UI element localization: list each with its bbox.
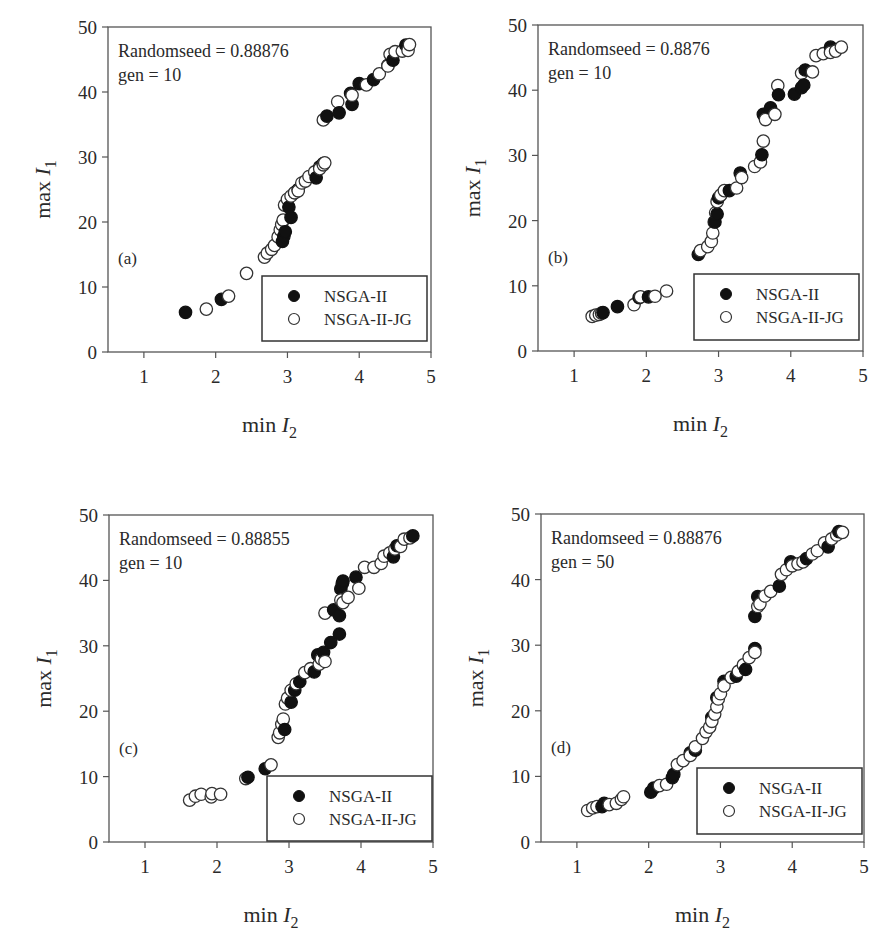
nsga-ii-point — [333, 628, 345, 640]
x-tick-label: 1 — [572, 856, 582, 877]
legend: NSGA-IINSGA-II-JG — [694, 274, 859, 340]
panel-label: (b) — [548, 248, 568, 267]
nsga-ii-point — [333, 107, 345, 119]
y-tick-label: 30 — [508, 145, 527, 166]
nsga-ii-jg-point — [342, 591, 354, 603]
nsga-ii-jg-point — [200, 303, 212, 315]
x-axis-title: min I2 — [242, 412, 297, 441]
nsga-ii-jg-point — [835, 41, 847, 53]
legend-box — [262, 276, 427, 341]
y-axis-title: max I1 — [463, 649, 492, 708]
y-tick-label: 50 — [508, 15, 527, 36]
nsga-ii-jg-point — [617, 791, 629, 803]
nsga-ii-point — [337, 575, 349, 587]
legend-box — [694, 274, 859, 340]
nsga-ii-point — [242, 771, 254, 783]
generation-annotation: gen = 10 — [118, 65, 181, 85]
legend: NSGA-IINSGA-II-JG — [267, 776, 432, 841]
nsga-ii-jg-point — [403, 38, 415, 50]
y-tick-label: 40 — [79, 570, 98, 591]
nsga-ii-jg-point — [769, 108, 781, 120]
x-tick-label: 3 — [716, 856, 726, 877]
y-tick-label: 30 — [511, 635, 530, 656]
nsga-ii-point — [285, 696, 297, 708]
nsga-ii-jg-point — [806, 66, 818, 78]
nsga-ii-jg-point — [660, 285, 672, 297]
panel-label: (c) — [119, 739, 138, 758]
nsga-ii-jg-point — [319, 655, 331, 667]
scatter-panel-b: 0102030405012345max I1min I2Randomseed =… — [460, 15, 868, 440]
y-tick-label: 0 — [89, 832, 99, 853]
x-tick-label: 4 — [356, 856, 366, 877]
y-tick-label: 50 — [79, 505, 98, 526]
y-axis-title: max I1 — [460, 159, 489, 218]
nsga-ii-jg-point — [319, 157, 331, 169]
x-tick-label: 3 — [283, 366, 293, 387]
x-tick-label: 1 — [569, 365, 579, 386]
generation-annotation: gen = 10 — [548, 63, 611, 83]
nsga-ii-point — [407, 530, 419, 542]
nsga-ii-point — [279, 226, 291, 238]
nsga-ii-point — [611, 300, 623, 312]
legend: NSGA-IINSGA-II-JG — [697, 768, 862, 834]
x-tick-label: 1 — [139, 366, 149, 387]
nsga-ii-point — [739, 663, 751, 675]
randomseed-annotation: Randomseed = 0.88855 — [119, 529, 290, 549]
x-axis-title: min I2 — [243, 902, 298, 931]
x-tick-label: 4 — [787, 856, 797, 877]
legend-box — [267, 776, 432, 841]
nsga-ii-point — [278, 723, 290, 735]
legend-box — [697, 768, 862, 834]
nsga-ii-point — [285, 211, 297, 223]
legend-label-nsga-ii: NSGA-II — [756, 285, 820, 304]
nsga-ii-jg-point — [331, 96, 343, 108]
legend: NSGA-IINSGA-II-JG — [262, 276, 427, 341]
nsga-ii-jg-point — [707, 227, 719, 239]
nsga-ii-jg-point — [240, 267, 252, 279]
open-circle-icon — [289, 314, 300, 325]
randomseed-annotation: Randomseed = 0.88876 — [118, 41, 289, 61]
x-axis-title: min I2 — [675, 902, 730, 931]
y-tick-label: 10 — [508, 276, 527, 297]
legend-label-nsga-ii: NSGA-II — [329, 787, 393, 806]
y-tick-label: 20 — [511, 701, 530, 722]
open-circle-icon — [721, 312, 732, 323]
x-tick-label: 2 — [642, 365, 652, 386]
legend-label-nsga-ii-jg: NSGA-II-JG — [324, 310, 412, 329]
scatter-panel-d: 0102030405012345max I1min I2Randomseed =… — [463, 504, 869, 931]
y-tick-label: 30 — [78, 147, 97, 168]
open-circle-icon — [294, 814, 305, 825]
nsga-ii-jg-point — [353, 582, 365, 594]
x-tick-label: 2 — [644, 856, 654, 877]
nsga-ii-jg-point — [346, 89, 358, 101]
panel-label: (a) — [118, 249, 137, 268]
nsga-ii-jg-point — [214, 788, 226, 800]
y-tick-label: 40 — [508, 80, 527, 101]
nsga-ii-jg-point — [222, 290, 234, 302]
figure: 0102030405012345max I1min I2Randomseed =… — [0, 0, 896, 949]
y-tick-label: 40 — [78, 82, 97, 103]
nsga-ii-point — [773, 580, 785, 592]
filled-circle-icon — [721, 289, 732, 300]
nsga-ii-point — [179, 306, 191, 318]
nsga-ii-jg-point — [649, 290, 661, 302]
y-tick-label: 20 — [508, 211, 527, 232]
x-tick-label: 5 — [428, 856, 438, 877]
y-tick-label: 0 — [518, 341, 528, 362]
y-axis-title: max I1 — [30, 160, 59, 219]
nsga-ii-jg-point — [265, 759, 277, 771]
nsga-ii-point — [756, 149, 768, 161]
nsga-ii-point — [798, 79, 810, 91]
y-tick-label: 0 — [521, 832, 531, 853]
generation-annotation: gen = 10 — [119, 553, 182, 573]
nsga-ii-point — [711, 208, 723, 220]
nsga-ii-point — [772, 89, 784, 101]
nsga-ii-jg-point — [735, 171, 747, 183]
scatter-panel-a: 0102030405012345max I1min I2Randomseed =… — [30, 17, 436, 441]
x-tick-label: 1 — [140, 856, 150, 877]
legend-label-nsga-ii: NSGA-II — [324, 287, 388, 306]
legend-label-nsga-ii-jg: NSGA-II-JG — [756, 308, 844, 327]
x-axis-title: min I2 — [673, 411, 728, 440]
y-tick-label: 0 — [88, 342, 98, 363]
y-axis-title: max I1 — [31, 649, 60, 708]
